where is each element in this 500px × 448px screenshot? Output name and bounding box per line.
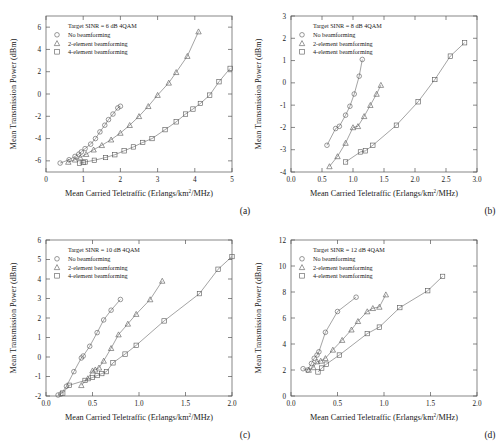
legend-triangle-icon [299,41,304,46]
data-point-triangle [383,292,388,297]
legend-square-icon [55,50,60,55]
x-tick-label: 0.0 [287,400,296,408]
legend-circle-icon [300,33,305,38]
y-tick-label: 2 [37,68,41,76]
series-line [318,276,443,372]
subplot-a: 012345-6-4-20246Mean Transmission Power … [0,0,245,224]
caption-d: (d) [245,430,500,440]
legend-label: 4-element beamforming [313,48,373,55]
y-axis-title: Mean Transmission Power (dBm) [254,38,263,149]
y-tick-label: 4 [282,341,286,349]
x-tick-label: 1.0 [380,400,389,408]
y-tick-label: 1 [282,57,286,65]
x-tick-label: 2 [119,176,123,184]
y-tick-label: 2 [282,35,286,43]
x-tick-label: 1.0 [135,400,144,408]
data-point-triangle [160,278,165,283]
series-circle [58,104,123,165]
series-square [316,274,445,374]
x-tick-label: 1.0 [349,176,358,184]
x-tick-label: 0.5 [318,176,327,184]
plot-c: 0.00.51.01.52.0-2-10123456Mean Transmiss… [0,224,245,448]
legend-title: Target SINR = 6 dB 4QAM [68,22,137,29]
y-tick-label: -4 [280,169,286,177]
subplot-c: 0.00.51.01.52.0-2-10123456Mean Transmiss… [0,224,245,448]
y-tick-label: -2 [35,393,41,401]
y-tick-label: 0 [37,91,41,99]
y-tick-label: 3 [37,295,41,303]
caption-b: (b) [245,206,500,216]
data-point-square [343,160,347,164]
series-line [346,43,465,162]
legend-square-icon [300,50,305,55]
legend: Target SINR = 10 dB 4QAMNo beamforming2-… [54,246,140,279]
x-tick-label: 0.0 [287,176,296,184]
y-axis-title: Mean Transmission Power (dBm) [254,262,263,373]
series-line [79,68,230,163]
legend-label: 4-element beamforming [68,48,128,55]
x-axis-title: Mean Carried Teletraffic (Erlangs/km2/MH… [310,188,458,198]
legend-title: Target SINR = 8 dB 4QAM [313,22,382,29]
x-axis-title: Mean Carried Teletraffic (Erlangs/km2/MH… [65,412,213,422]
series-triangle [79,278,165,387]
series-line [327,59,362,145]
legend-label: 4-element beamforming [68,272,128,279]
data-point-circle [58,161,63,166]
y-tick-label: 6 [37,24,41,32]
legend-square-icon [55,274,60,279]
legend: Target SINR = 12 dB 4QAMNo beamforming2-… [299,246,385,279]
x-tick-label: 2.0 [411,176,420,184]
series-circle [301,295,359,372]
x-tick-label: 3.0 [473,176,482,184]
plot-b: 0.00.51.01.52.02.53.0-4-3-2-10123Mean Tr… [245,0,490,224]
legend: Target SINR = 6 dB 4QAMNo beamforming2-e… [54,22,137,55]
x-axis-title: Mean Carried Teletraffic (Erlangs/km2/MH… [65,188,213,198]
subplot-b: 0.00.51.01.52.02.53.0-4-3-2-10123Mean Tr… [245,0,490,224]
x-tick-label: 3 [156,176,160,184]
y-tick-label: 0 [282,79,286,87]
legend-title: Target SINR = 12 dB 4QAM [313,246,385,253]
legend-label: No beamforming [313,255,355,262]
x-tick-label: 4 [193,176,197,184]
x-axis-title: Mean Carried Teletraffic (Erlangs/km2/MH… [310,412,458,422]
legend-label: No beamforming [68,31,110,38]
y-tick-label: 0 [37,354,41,362]
x-tick-label: 5 [230,176,234,184]
subplot-d: 0.00.51.01.52.0024681012Mean Transmissio… [245,224,490,448]
y-tick-label: 3 [282,13,286,21]
legend: Target SINR = 8 dB 4QAMNo beamforming2-e… [299,22,382,55]
x-tick-label: 0.5 [333,400,342,408]
legend-label: No beamforming [313,31,355,38]
y-axis-title: Mean Transmission Power (dBm) [9,262,18,373]
y-tick-label: 0 [282,393,286,401]
y-tick-label: -3 [280,146,286,154]
series-square [343,41,466,165]
y-tick-label: 6 [37,237,41,245]
series-line [60,106,120,163]
x-tick-label: 0 [44,176,48,184]
legend-circle-icon [55,257,60,262]
legend-label: 2-element beamforming [68,264,128,271]
data-point-triangle [378,82,383,87]
legend-circle-icon [300,257,305,262]
legend-label: 2-element beamforming [313,40,373,47]
y-tick-label: 4 [37,276,41,284]
series-circle [56,297,123,397]
y-tick-label: 2 [282,367,286,375]
legend-label: 4-element beamforming [313,272,373,279]
y-tick-label: -2 [35,113,41,121]
legend-triangle-icon [54,41,59,46]
y-tick-label: 6 [282,315,286,323]
x-tick-label: 1.5 [380,176,389,184]
legend-triangle-icon [54,265,59,270]
x-tick-label: 2.5 [442,176,451,184]
legend-label: 2-element beamforming [313,264,373,271]
legend-triangle-icon [299,265,304,270]
x-tick-label: 2.0 [228,400,237,408]
x-tick-label: 0.5 [88,400,97,408]
y-tick-label: -1 [35,373,41,381]
y-tick-label: 2 [37,315,41,323]
x-tick-label: 0.0 [42,400,51,408]
legend-label: 2-element beamforming [68,40,128,47]
